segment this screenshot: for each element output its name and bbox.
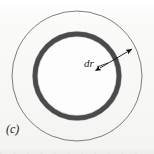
panel-label: (c) <box>6 123 19 135</box>
caption-sliver-text: . . . . . . . . . . . <box>0 148 154 154</box>
concentric-circles-diagram <box>0 0 154 154</box>
interior-disc <box>38 37 116 115</box>
dr-annotation-label: dr <box>84 58 94 69</box>
figure-panel-c: dr (c) . . . . . . . . . . . <box>0 0 154 154</box>
